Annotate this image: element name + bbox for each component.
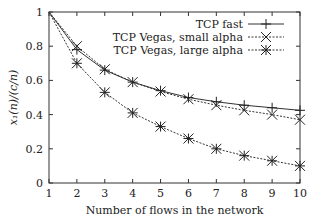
x-tick-label: 7 — [213, 187, 220, 200]
data-point-series-2 — [156, 122, 166, 132]
legend-marker-2 — [261, 45, 271, 55]
y-tick-label: 0.8 — [26, 40, 44, 53]
y-tick-label: 0.6 — [26, 74, 44, 87]
data-point-series-0 — [100, 65, 110, 75]
data-point-series-0 — [295, 105, 305, 115]
x-tick-label: 10 — [293, 187, 307, 200]
x-tick-label: 1 — [46, 187, 53, 200]
x-tick-label: 4 — [129, 187, 136, 200]
y-tick-label: 0 — [36, 177, 43, 190]
legend-label: TCP Vegas, large alpha — [114, 44, 244, 57]
data-point-series-0 — [183, 93, 193, 103]
series-markers — [72, 41, 305, 171]
y-axis-label: x₁(n)/(c/n) — [7, 70, 20, 126]
data-point-series-2 — [267, 156, 277, 166]
y-tick-label: 1 — [36, 6, 43, 19]
data-point-series-0 — [156, 86, 166, 96]
data-point-series-2 — [295, 161, 305, 171]
legend: TCP fastTCP Vegas, small alphaTCP Vegas,… — [113, 18, 284, 57]
x-tick-label: 6 — [185, 187, 192, 200]
series-line-1 — [49, 12, 300, 120]
y-tick-label: 0.4 — [26, 109, 44, 122]
data-point-series-2 — [72, 58, 82, 68]
data-point-series-2 — [100, 87, 110, 97]
y-tick-label: 0.2 — [26, 143, 44, 156]
legend-marker-0 — [261, 19, 271, 29]
x-tick-label: 2 — [73, 187, 80, 200]
x-tick-label: 3 — [101, 187, 108, 200]
x-tick-label: 8 — [241, 187, 248, 200]
legend-label: TCP fast — [196, 18, 244, 31]
x-axis-label: Number of flows in the network — [86, 204, 264, 217]
data-point-series-2 — [211, 144, 221, 154]
line-chart: 1234567891000.20.40.60.81 TCP fastTCP Ve… — [0, 0, 321, 220]
x-tick-label: 9 — [269, 187, 276, 200]
data-point-series-2 — [128, 108, 138, 118]
data-point-series-2 — [183, 134, 193, 144]
legend-label: TCP Vegas, small alpha — [113, 31, 244, 44]
data-point-series-0 — [239, 100, 249, 110]
data-point-series-2 — [239, 151, 249, 161]
x-tick-label: 5 — [157, 187, 164, 200]
